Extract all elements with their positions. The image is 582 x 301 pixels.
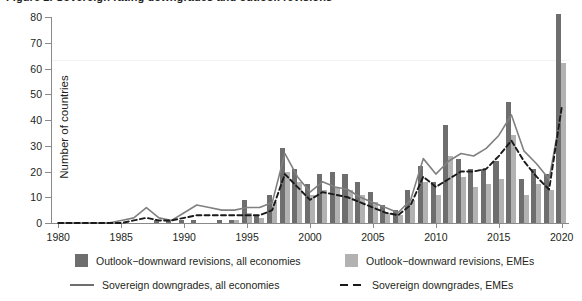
y-tick	[45, 17, 51, 18]
y-tick	[45, 43, 51, 44]
legend-line-dashed-icon	[340, 279, 364, 291]
legend-swatch-dark-icon	[75, 254, 88, 267]
legend-label: Sovereign downgrades, EMEs	[372, 279, 513, 291]
y-tick-label: 80	[30, 11, 42, 23]
line-downgrades-all	[58, 110, 561, 223]
legend-item-downgrades-all[interactable]: Sovereign downgrades, all economies	[70, 279, 279, 291]
y-tick	[45, 69, 51, 70]
legend-label: Outlook−downward revisions, EMEs	[366, 255, 534, 267]
x-tick	[247, 223, 248, 228]
y-tick	[45, 120, 51, 121]
y-tick-label: 30	[30, 140, 42, 152]
x-tick-label: 1985	[110, 231, 133, 243]
x-tick-label: 2000	[298, 231, 321, 243]
x-tick	[436, 223, 437, 228]
x-tick	[499, 223, 500, 228]
y-tick	[45, 146, 51, 147]
x-tick	[184, 223, 185, 228]
legend-label: Sovereign downgrades, all economies	[102, 279, 279, 291]
plot-area: 01020304050607080 1980198519901995200020…	[0, 0, 582, 248]
y-tick-label: 50	[30, 88, 42, 100]
legend-item-downgrades-emes[interactable]: Sovereign downgrades, EMEs	[340, 279, 513, 291]
y-tick-label: 20	[30, 166, 42, 178]
chart-legend: Outlook−downward revisions, all economie…	[0, 249, 582, 301]
x-tick-label: 2015	[487, 231, 510, 243]
x-tick	[562, 223, 563, 228]
x-tick	[121, 223, 122, 228]
y-axis-title: Number of countries	[58, 27, 70, 227]
x-tick-label: 1990	[172, 231, 195, 243]
y-tick	[45, 197, 51, 198]
y-tick-label: 70	[30, 37, 42, 49]
legend-item-outlook-emes[interactable]: Outlook−downward revisions, EMEs	[345, 254, 534, 267]
y-tick-label: 0	[36, 217, 42, 229]
y-tick-label: 40	[30, 114, 42, 126]
legend-swatch-light-icon	[345, 254, 358, 267]
y-tick	[45, 94, 51, 95]
plot-canvas: Number of countries	[52, 17, 568, 223]
x-tick	[373, 223, 374, 228]
legend-label: Outlook−downward revisions, all economie…	[96, 255, 301, 267]
x-tick-label: 1980	[47, 231, 70, 243]
legend-item-outlook-all[interactable]: Outlook−downward revisions, all economie…	[75, 254, 301, 267]
x-tick-label: 2020	[550, 231, 573, 243]
x-tick-label: 2010	[424, 231, 447, 243]
y-tick	[45, 172, 51, 173]
y-tick-label: 60	[30, 63, 42, 75]
y-tick	[45, 223, 51, 224]
line-downgrades-emes	[58, 107, 561, 223]
x-tick-label: 2005	[361, 231, 384, 243]
legend-line-solid-icon	[70, 279, 94, 291]
line-group	[52, 17, 568, 223]
x-tick	[310, 223, 311, 228]
chart-figure: Figure 2. Sovereign rating downgrades an…	[0, 0, 582, 301]
x-tick-label: 1995	[235, 231, 258, 243]
y-tick-label: 10	[30, 191, 42, 203]
